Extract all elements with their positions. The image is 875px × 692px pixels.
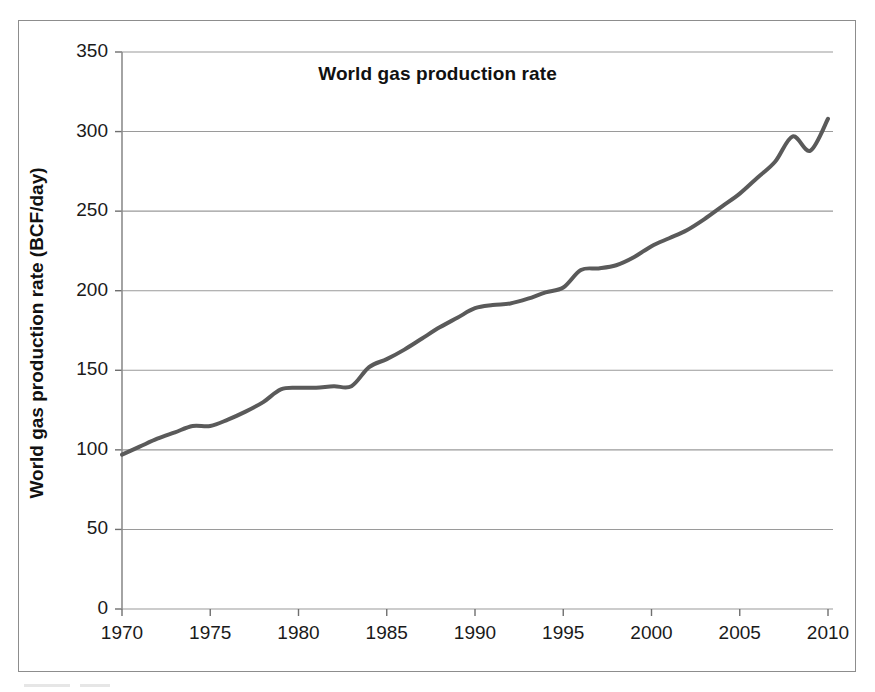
y-tick-label: 0 (42, 597, 108, 619)
y-tick-label: 350 (42, 40, 108, 62)
x-tick-label: 2010 (788, 622, 868, 644)
y-tick-label: 100 (42, 438, 108, 460)
y-tick-label: 250 (42, 199, 108, 221)
y-tick-label: 50 (42, 517, 108, 539)
y-tick-label: 200 (42, 279, 108, 301)
y-tick-label: 150 (42, 358, 108, 380)
x-tick-label: 1980 (259, 622, 339, 644)
x-tick-label: 1970 (82, 622, 162, 644)
scan-artifact (24, 684, 70, 687)
x-tick-label: 1995 (523, 622, 603, 644)
chart-plot (0, 0, 875, 692)
x-tick-label: 1985 (347, 622, 427, 644)
data-series-line (122, 119, 828, 455)
x-tick-label: 1990 (435, 622, 515, 644)
gridlines (122, 52, 833, 609)
x-tick-label: 2000 (612, 622, 692, 644)
figure-page: World gas production rate World gas prod… (0, 0, 875, 692)
x-tick-label: 2005 (700, 622, 780, 644)
x-tick-label: 1975 (170, 622, 250, 644)
y-tick-label: 300 (42, 120, 108, 142)
scan-artifact (80, 684, 110, 687)
x-tick-marks (122, 609, 828, 616)
y-tick-marks (115, 52, 122, 609)
